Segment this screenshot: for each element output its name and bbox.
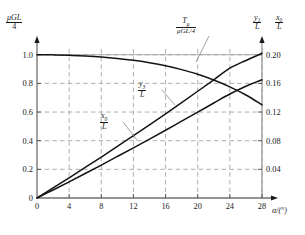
y-axis-right-title-y3: y₃ L (253, 14, 261, 31)
x-axis-tick-label: 4 (67, 202, 72, 211)
annotation-x0-den: L (100, 122, 108, 131)
y-axis-right-tick-label: 0.20 (266, 51, 281, 60)
axis-bottom-arrow (271, 195, 278, 200)
x-axis-tick-label: 16 (161, 202, 169, 211)
y-axis-left-title-num: μGL (6, 14, 22, 22)
data-curve (37, 55, 262, 105)
y-axis-right-tick-label: 0.16 (266, 79, 281, 88)
annotation-t-mu-num-sub: μ (187, 21, 190, 27)
x-axis-tick-label: 20 (194, 202, 202, 211)
axis-right-arrow (259, 36, 264, 43)
y-axis-left-title: μGL 4 (6, 14, 22, 31)
y-axis-left-title-den: 4 (6, 22, 22, 31)
x-axis-tick-label: 8 (99, 202, 103, 211)
annotation-t-mu-den: μGL/4 (176, 27, 196, 35)
y-axis-left-tick-label: 1.0 (23, 51, 33, 60)
y-axis-right-title-x0: x₀ L (275, 14, 283, 31)
x-axis-tick-label: 0 (35, 202, 39, 211)
x-axis-tick-label: 24 (226, 202, 235, 211)
annotation-y3-den: L (138, 90, 146, 99)
y-axis-right-tick-label: 0.12 (266, 108, 281, 117)
x-axis-tick-label: 12 (129, 202, 137, 211)
annotation-y3-num-sub: 3 (143, 84, 146, 90)
annotation-t-mu: Tμ μGL/4 (176, 17, 196, 35)
curves-layer (37, 53, 262, 198)
grid-layer (37, 49, 262, 198)
chart-figure: μGL 4 y₃ L x₀ L Tμ μGL/4 y3 L x0 L (0, 0, 305, 235)
y-axis-right-title-y3-num: y₃ (253, 14, 261, 22)
leader-lines-layer (123, 36, 209, 140)
y-axis-right-title-y3-den: L (253, 22, 261, 31)
y-axis-right-title-x0-den: L (275, 22, 283, 31)
axis-left-arrow (34, 36, 39, 43)
annotation-y3-over-l: y3 L (138, 80, 146, 99)
y-axis-left-tick-label: 0.2 (23, 165, 33, 174)
y-axis-left-tick-label: 0.6 (23, 108, 33, 117)
y-axis-left-tick-label: 0 (29, 194, 33, 203)
annotation-x0-num-sub: 0 (105, 116, 108, 122)
x-axis-tick-label: 28 (258, 202, 266, 211)
annotation-x0-over-l: x0 L (100, 112, 108, 131)
x-axis-title-text: α/(°) (272, 206, 287, 215)
y-axis-right-title-x0-num: x₀ (275, 14, 283, 22)
y-axis-right-tick-label: 0.08 (266, 137, 281, 146)
y-axis-left-tick-label: 0.4 (23, 137, 34, 146)
plot-canvas: 048121620242800.20.40.60.81.00.040.080.1… (0, 0, 305, 235)
tick-labels-layer: 048121620242800.20.40.60.81.00.040.080.1… (23, 51, 282, 211)
data-curve (37, 53, 262, 198)
y-axis-right-tick-label: 0.04 (266, 165, 281, 174)
data-curve (37, 80, 262, 198)
y-axis-left-tick-label: 0.8 (23, 79, 33, 88)
x-axis-title: α/(°) (272, 206, 287, 215)
annotation-leader-line (162, 90, 175, 105)
